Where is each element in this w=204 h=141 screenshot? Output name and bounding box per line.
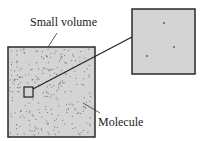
magnified-inset-box: [132, 9, 195, 74]
container-box: [8, 47, 95, 137]
inset-molecule: [163, 22, 165, 24]
small-volume-leader: [48, 33, 57, 47]
molecule-label: Molecule: [98, 116, 143, 128]
inset-molecule: [173, 46, 175, 48]
inset-molecule: [146, 55, 148, 57]
small-volume-label: Small volume: [30, 16, 97, 28]
